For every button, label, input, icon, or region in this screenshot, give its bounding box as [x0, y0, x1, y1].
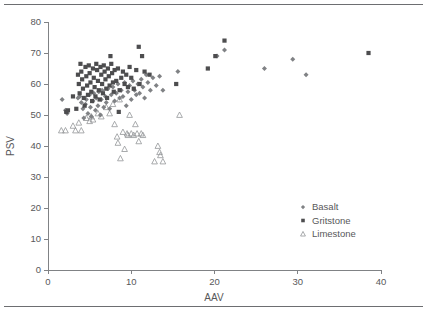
data-point [100, 82, 104, 86]
data-point [95, 103, 100, 108]
data-point [129, 76, 133, 80]
data-point [147, 73, 151, 77]
data-point [93, 94, 97, 98]
data-point [102, 63, 106, 67]
data-point [222, 47, 227, 52]
data-point [78, 91, 82, 95]
data-point [109, 62, 113, 66]
y-tick-label: 80 [30, 16, 41, 27]
data-point [81, 87, 85, 91]
y-tick-label: 20 [30, 202, 41, 213]
data-point [304, 72, 309, 77]
y-tick-label: 10 [30, 233, 41, 244]
data-point [117, 110, 121, 114]
data-point [133, 121, 139, 126]
data-point [71, 94, 75, 98]
y-tick-label: 40 [30, 140, 41, 151]
x-tick-label: 40 [376, 276, 387, 287]
data-point [112, 121, 118, 126]
data-point [155, 143, 161, 148]
data-point [157, 74, 162, 79]
data-point [114, 134, 120, 139]
y-tick-label: 70 [30, 47, 41, 58]
data-point [76, 120, 82, 125]
data-point [98, 97, 102, 101]
data-point [106, 66, 110, 70]
data-point [122, 146, 128, 151]
data-point [83, 104, 87, 108]
data-point [124, 73, 128, 77]
data-point [142, 95, 147, 100]
data-point [90, 99, 94, 103]
data-point [74, 107, 78, 111]
data-point [137, 45, 141, 49]
data-point [105, 96, 109, 100]
x-tick-label: 30 [292, 276, 303, 287]
data-point [124, 103, 129, 108]
data-point [206, 66, 210, 70]
data-point [92, 76, 96, 80]
data-point [154, 83, 159, 88]
data-point [101, 91, 105, 95]
y-axis-title: PSV [5, 136, 16, 156]
data-point [63, 128, 69, 133]
x-tick-label: 0 [45, 276, 50, 287]
data-point [175, 69, 180, 74]
legend-label-gritstone: Gritstone [312, 215, 351, 226]
data-point [160, 159, 166, 164]
data-point [77, 82, 81, 86]
data-point [140, 54, 144, 58]
data-point [88, 71, 92, 75]
data-point [136, 138, 142, 143]
data-point [112, 99, 117, 104]
data-point [152, 159, 158, 164]
data-point [91, 66, 95, 70]
data-point [366, 51, 370, 55]
data-point [137, 82, 141, 86]
data-point [160, 88, 165, 93]
data-point [60, 97, 65, 102]
data-point [114, 79, 118, 83]
data-point [127, 65, 131, 69]
data-point [89, 90, 93, 94]
data-point [88, 80, 92, 84]
data-point [126, 85, 130, 89]
data-point [134, 68, 138, 72]
data-point [96, 79, 100, 83]
y-tick-label: 0 [36, 264, 41, 275]
data-point [88, 105, 93, 110]
data-point [108, 54, 112, 58]
legend-label-limestone: Limestone [312, 228, 356, 239]
data-point [142, 70, 146, 74]
data-point [94, 62, 98, 66]
legend: BasaltGritstoneLimestone [301, 201, 356, 239]
data-point [125, 89, 130, 94]
data-points [58, 39, 370, 164]
data-point [148, 88, 153, 93]
data-point [118, 155, 124, 160]
y-tick-label: 30 [30, 171, 41, 182]
data-point [70, 123, 76, 128]
data-point [98, 113, 103, 118]
data-point [117, 88, 121, 92]
data-point [145, 80, 150, 85]
data-point [93, 85, 97, 89]
data-point [80, 77, 84, 81]
figure-container: 01020304050607080010203040 BasaltGritsto… [0, 0, 427, 318]
axis-tick-labels: 01020304050607080010203040 [30, 16, 386, 287]
series-basalt [60, 47, 309, 120]
data-point [139, 77, 144, 82]
legend-marker-limestone [301, 231, 306, 236]
legend-marker-basalt [301, 205, 305, 209]
data-point [115, 140, 121, 145]
data-point [213, 54, 217, 58]
y-tick-label: 60 [30, 78, 41, 89]
data-point [112, 90, 116, 94]
data-point [119, 76, 123, 80]
x-axis-title: AAV [204, 292, 224, 303]
x-tick-label: 10 [126, 276, 137, 287]
data-point [132, 87, 136, 91]
data-point [290, 57, 295, 62]
data-point [120, 129, 126, 134]
data-point [78, 128, 84, 133]
